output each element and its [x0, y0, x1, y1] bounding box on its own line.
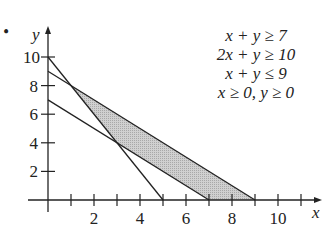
line-2x-plus-y-eq-10: [48, 57, 163, 200]
x-tick-label: 8: [228, 209, 237, 228]
x-tick-label: 6: [182, 209, 191, 228]
inequality-3: x + y ≤ 9: [196, 64, 316, 83]
inequality-1: x + y ≥ 7: [196, 26, 316, 45]
x-tick-label: 2: [90, 209, 99, 228]
inequality-4: x ≥ 0, y ≥ 0: [196, 83, 316, 102]
y-axis-arrow-icon: [45, 26, 51, 34]
y-tick-label: 10: [23, 48, 40, 67]
inequality-list: x + y ≥ 7 2x + y ≥ 10 x + y ≤ 9 x ≥ 0, y…: [196, 26, 316, 102]
y-tick-label: 8: [30, 77, 39, 96]
x-tick-label: 10: [270, 209, 287, 228]
x-axis-label: x: [311, 203, 320, 222]
y-axis-label: y: [30, 25, 40, 44]
line-x-plus-y-eq-7: [48, 100, 209, 200]
inequality-2: 2x + y ≥ 10: [196, 45, 316, 64]
x-tick-label: 4: [136, 209, 145, 228]
y-tick-label: 2: [30, 162, 39, 181]
y-tick-label: 4: [30, 134, 39, 153]
y-tick-label: 6: [30, 105, 39, 124]
